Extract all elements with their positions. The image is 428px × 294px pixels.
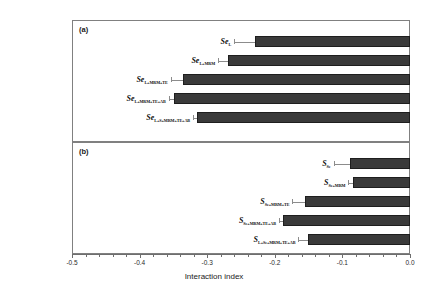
x-tick-major	[207, 254, 208, 258]
x-tick-label: 0.0	[405, 259, 414, 266]
x-tick-minor	[86, 254, 87, 257]
panel-b-tag: (b)	[79, 147, 89, 156]
series-label: SSe+MRM+TE+AB	[239, 215, 276, 226]
bar	[197, 112, 410, 123]
error-bar	[292, 202, 305, 203]
x-tick-major	[140, 254, 141, 258]
bar	[305, 196, 410, 207]
x-tick-minor	[288, 254, 289, 257]
x-tick-minor	[329, 254, 330, 257]
bar	[308, 234, 410, 245]
x-tick-minor	[315, 254, 316, 257]
error-bar-cap	[334, 161, 335, 166]
x-tick-major	[72, 254, 73, 258]
x-tick-minor	[221, 254, 222, 257]
error-bar	[334, 164, 350, 165]
x-tick-label: -0.1	[337, 259, 348, 266]
x-tick-minor	[194, 254, 195, 257]
x-tick-minor	[126, 254, 127, 257]
error-bar-cap	[279, 218, 280, 223]
error-bar	[298, 240, 307, 241]
series-label-subscript: Se+MRM+TE+AB	[243, 221, 275, 226]
x-tick-minor	[99, 254, 100, 257]
x-tick-minor	[180, 254, 181, 257]
series-label-base: Se	[191, 55, 199, 64]
x-tick-major	[342, 254, 343, 258]
series-label-subscript: Se+MRM	[329, 183, 346, 188]
x-tick-minor	[396, 254, 397, 257]
series-label: SeL	[221, 36, 232, 47]
x-tick-minor	[302, 254, 303, 257]
series-label-subscript: L+S+MRM+TE+AB	[154, 118, 190, 123]
error-bar	[218, 61, 228, 62]
x-tick-minor	[234, 254, 235, 257]
x-tick-minor	[356, 254, 357, 257]
series-label-base: Se	[136, 74, 144, 83]
series-label: SeL+MRM+TE	[136, 74, 167, 85]
series-label: SL+Se+MRM+TE+AB	[254, 234, 296, 245]
error-bar-cap	[298, 237, 299, 242]
series-label: SSe+MRM	[324, 177, 345, 188]
series-label-subscript: L	[229, 42, 232, 47]
x-axis-line	[72, 254, 410, 255]
x-tick-minor	[153, 254, 154, 257]
x-tick-label: -0.2	[269, 259, 280, 266]
x-tick-minor	[248, 254, 249, 257]
error-bar-cap	[169, 96, 170, 101]
error-bar-cap	[171, 77, 172, 82]
bar	[255, 36, 410, 47]
error-bar-cap	[234, 39, 235, 44]
bar	[283, 215, 410, 226]
x-tick-label: -0.3	[202, 259, 213, 266]
series-label-subscript: L+MRM	[199, 61, 215, 66]
x-tick-label: -0.5	[66, 259, 77, 266]
series-label-subscript: L+Se+MRM+TE+AB	[258, 240, 295, 245]
error-bar	[234, 42, 255, 43]
x-tick-major	[275, 254, 276, 258]
error-bar-cap	[292, 199, 293, 204]
x-tick-minor	[167, 254, 168, 257]
error-bar-cap	[348, 180, 349, 185]
bar	[183, 74, 410, 85]
series-label: SeL+MRM	[191, 55, 215, 66]
series-label: SeL+MRM+TE+AB	[126, 93, 165, 104]
error-bar-cap	[218, 58, 219, 63]
series-label-subscript: Se	[327, 164, 331, 169]
figure: (a) (b) SeLSeL+MRMSeL+MRM+TESeL+MRM+TE+A…	[0, 0, 428, 294]
bar	[174, 93, 410, 104]
panel-a-tag: (a)	[79, 25, 88, 34]
x-axis-title: Interaction index	[0, 272, 428, 281]
series-label: SSe+MRM+TE	[260, 196, 289, 207]
x-tick-minor	[383, 254, 384, 257]
bar	[350, 158, 410, 169]
series-label-base: Se	[146, 112, 154, 121]
x-tick-label: -0.4	[134, 259, 145, 266]
x-tick-major	[410, 254, 411, 258]
bar	[228, 55, 410, 66]
series-label-subscript: L+MRM+TE	[144, 80, 167, 85]
error-bar-cap	[193, 115, 194, 120]
series-label-base: Se	[126, 93, 134, 102]
bar	[353, 177, 410, 188]
x-tick-minor	[113, 254, 114, 257]
series-label: SSe	[322, 158, 330, 169]
series-label-subscript: Se+MRM+TE	[265, 202, 290, 207]
x-tick-minor	[369, 254, 370, 257]
series-label-subscript: L+MRM+TE+AB	[134, 99, 165, 104]
series-label: SeL+S+MRM+TE+AB	[146, 112, 190, 123]
x-tick-minor	[261, 254, 262, 257]
series-label-base: Se	[221, 36, 229, 45]
error-bar	[171, 80, 183, 81]
